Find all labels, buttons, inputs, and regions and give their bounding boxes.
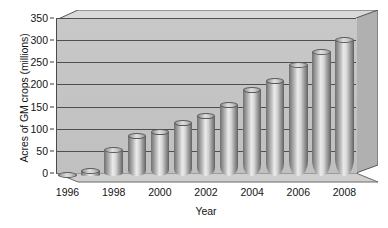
y-tick-mark — [50, 40, 54, 41]
bar — [335, 34, 353, 176]
bar-cap — [151, 129, 169, 135]
bar — [104, 144, 122, 176]
bar — [289, 59, 307, 176]
bar-body — [220, 105, 238, 176]
x-tick-label: 2008 — [333, 186, 356, 198]
y-axis-ticks: 050100150200250300350 — [0, 0, 56, 228]
y-tick-label: 50 — [36, 145, 48, 157]
bar-body — [312, 52, 330, 176]
bar-cap — [81, 168, 99, 174]
y-tick-mark — [50, 62, 54, 63]
x-tick-label: 1998 — [102, 186, 125, 198]
y-tick-mark — [50, 128, 54, 129]
bar-body — [266, 81, 284, 176]
x-tick-label: 2002 — [194, 186, 217, 198]
x-tick-label: 1996 — [56, 186, 79, 198]
bar — [174, 117, 192, 176]
y-tick-label: 150 — [30, 101, 48, 113]
bar-cap — [58, 172, 76, 178]
bar-body — [104, 150, 122, 176]
bar — [58, 169, 76, 176]
plot-area — [56, 10, 378, 188]
bar-cap — [335, 37, 353, 43]
bar-chart-figure: Acres of GM crops (millions) 05010015020… — [0, 0, 388, 228]
bar-body — [197, 116, 215, 176]
y-tick-label: 200 — [30, 78, 48, 90]
x-axis-title: Year — [56, 205, 356, 217]
y-tick-label: 300 — [30, 34, 48, 46]
bar-body — [335, 40, 353, 176]
bar — [312, 46, 330, 176]
bar-body — [151, 132, 169, 176]
x-tick-label: 2004 — [240, 186, 263, 198]
y-tick-mark — [50, 18, 54, 19]
bar-body — [289, 65, 307, 176]
bar — [151, 126, 169, 176]
y-tick-mark — [50, 150, 54, 151]
x-tick-label: 2006 — [287, 186, 310, 198]
x-axis-ticks: 1996199820002002200420062008 — [56, 186, 378, 206]
bar-cap — [312, 49, 330, 55]
bar-body — [128, 136, 146, 176]
y-tick-label: 350 — [30, 12, 48, 24]
y-tick-mark — [50, 173, 54, 174]
y-tick-mark — [50, 106, 54, 107]
bar-cap — [243, 87, 261, 93]
y-tick-label: 100 — [30, 123, 48, 135]
bar — [197, 110, 215, 176]
bar-body — [174, 123, 192, 176]
bar-series — [56, 10, 378, 188]
y-tick-mark — [50, 84, 54, 85]
bar — [266, 75, 284, 176]
y-tick-label: 0 — [42, 167, 48, 179]
bar-body — [243, 90, 261, 176]
y-tick-label: 250 — [30, 56, 48, 68]
bar — [128, 130, 146, 176]
bar — [243, 84, 261, 176]
bar — [81, 165, 99, 176]
bar-cap — [266, 78, 284, 84]
x-tick-label: 2000 — [148, 186, 171, 198]
bar-cap — [174, 120, 192, 126]
bar — [220, 99, 238, 176]
